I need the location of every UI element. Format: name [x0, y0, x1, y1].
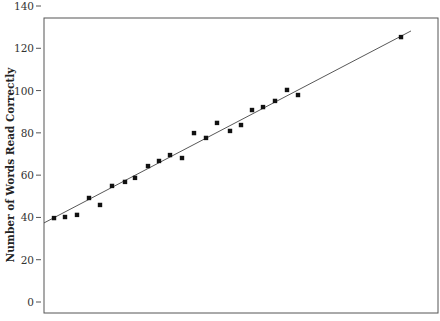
y-tick-label: 120: [14, 42, 34, 54]
data-point: [133, 176, 137, 180]
data-point: [215, 121, 219, 125]
y-tick-label: 100: [14, 85, 34, 97]
data-point: [250, 108, 254, 112]
data-point: [273, 99, 277, 103]
y-axis-label: Number of Words Read Correctly: [4, 67, 16, 263]
regression-line: [44, 31, 411, 223]
plot-frame: [44, 18, 438, 313]
data-point: [87, 196, 91, 200]
data-point: [180, 156, 184, 160]
y-axis: 020406080100120140: [14, 0, 41, 308]
y-tick-label: 40: [21, 211, 34, 223]
y-tick-label: 20: [21, 254, 34, 266]
data-point: [399, 35, 403, 39]
data-point: [285, 88, 289, 92]
data-point: [52, 216, 56, 220]
data-point: [296, 93, 300, 97]
data-point: [75, 213, 79, 217]
data-point: [228, 129, 232, 133]
y-tick-label: 0: [27, 296, 34, 308]
data-point: [168, 153, 172, 157]
data-point: [146, 164, 150, 168]
scatter-chart: 020406080100120140 Number of Words Read …: [0, 0, 440, 321]
y-tick-label: 140: [14, 0, 34, 12]
data-point: [192, 131, 196, 135]
data-point: [157, 159, 161, 163]
y-tick-label: 80: [21, 127, 34, 139]
data-point: [110, 184, 114, 188]
data-point: [63, 215, 67, 219]
data-point: [123, 180, 127, 184]
data-point: [98, 203, 102, 207]
data-point: [204, 136, 208, 140]
y-tick-label: 60: [21, 169, 34, 181]
data-point: [239, 123, 243, 127]
plot-border: [44, 18, 438, 313]
data-point: [261, 105, 265, 109]
